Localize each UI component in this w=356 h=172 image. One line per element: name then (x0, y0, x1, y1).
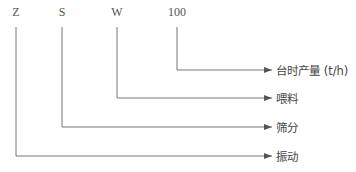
code-W: W (111, 5, 122, 20)
line-S-to-screening (62, 27, 272, 127)
line-Z-to-vibration (16, 27, 272, 156)
line-100-to-capacity (177, 27, 272, 70)
code-100: 100 (168, 5, 186, 20)
code-S: S (59, 5, 66, 20)
line-W-to-feeding (117, 27, 272, 98)
label-screening: 筛分 (276, 119, 298, 135)
connector-lines (0, 0, 356, 172)
label-feeding: 喂料 (276, 90, 298, 106)
label-vibration: 振动 (276, 148, 298, 164)
code-Z: Z (12, 5, 19, 20)
label-capacity: 台时产量 (t/h) (276, 62, 348, 78)
